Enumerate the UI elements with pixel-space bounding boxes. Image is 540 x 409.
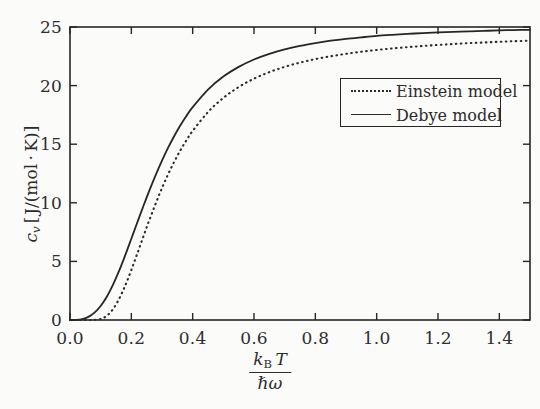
debye-curve [70, 30, 530, 320]
x-axis-label-denominator: ℏω [249, 373, 291, 392]
x-tick-label: 1.2 [424, 328, 452, 348]
x-tick-label: 0.8 [302, 328, 330, 348]
y-tick-label: 25 [24, 17, 62, 37]
tick-marks [70, 27, 530, 320]
legend: Einstein model Debye model [340, 78, 501, 127]
x-tick-label: 0.2 [118, 328, 146, 348]
x-tick-label: 0.4 [179, 328, 207, 348]
x-tick-label: 1.0 [363, 328, 391, 348]
x-axis-label-numerator: kB T [249, 350, 291, 373]
solid-line-icon [349, 109, 393, 121]
heat-capacity-chart: 0.00.20.40.60.81.01.21.40510152025 cv [ … [0, 0, 540, 409]
legend-label-einstein: Einstein model [393, 82, 517, 101]
x-tick-label: 0.6 [240, 328, 268, 348]
plot-frame [70, 27, 530, 320]
legend-label-debye: Debye model [393, 106, 502, 125]
x-tick-label: 0.0 [56, 328, 84, 348]
legend-item-einstein: Einstein model [349, 79, 517, 103]
dotted-line-icon [349, 85, 393, 97]
y-tick-label: 0 [24, 310, 62, 330]
y-axis-label: cv [ J/(mol · K)] [21, 64, 43, 304]
legend-item-debye: Debye model [349, 103, 502, 127]
x-tick-label: 1.4 [486, 328, 514, 348]
x-axis-label: kB T ℏω [249, 350, 291, 393]
